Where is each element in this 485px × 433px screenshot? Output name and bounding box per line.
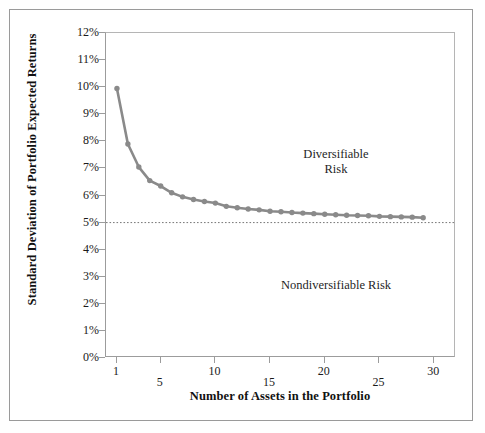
- y-axis-tick-label: 11%: [55, 53, 99, 65]
- y-axis-tick-label: 5%: [55, 216, 99, 228]
- x-axis-tick-label: 10: [194, 365, 234, 377]
- series-data-point: [180, 194, 185, 199]
- series-data-point: [388, 214, 393, 219]
- plot-canvas: [106, 33, 456, 358]
- x-axis-tick-label: 30: [413, 365, 453, 377]
- chart-figure: Standard Deviation of Portfolio Expected…: [0, 0, 485, 433]
- y-axis-tick-label: 2%: [55, 297, 99, 309]
- series-data-point: [300, 210, 305, 215]
- series-data-point: [278, 209, 283, 214]
- series-data-point: [169, 190, 174, 195]
- y-axis-tick-label: 0%: [55, 351, 99, 363]
- series-data-point: [191, 197, 196, 202]
- x-axis-tick-label: 1: [96, 365, 136, 377]
- x-axis-tick-mark: [269, 357, 270, 363]
- series-data-point: [399, 214, 404, 219]
- series-data-point: [311, 211, 316, 216]
- x-axis-tick-label: 5: [140, 376, 180, 388]
- x-axis-tick-label: 20: [304, 365, 344, 377]
- y-axis-tick-label: 12%: [55, 26, 99, 38]
- y-axis-title: Standard Deviation of Portfolio Expected…: [25, 20, 40, 320]
- series-data-point: [355, 213, 360, 218]
- plot-area: Diversifiable Risk Nondiversifiable Risk: [105, 32, 455, 357]
- y-axis-tick-label: 3%: [55, 270, 99, 282]
- y-axis-tick-label: 1%: [55, 324, 99, 336]
- y-axis-tick-label: 9%: [55, 107, 99, 119]
- series-data-point: [202, 199, 207, 204]
- x-axis-tick-mark: [116, 357, 117, 363]
- series-data-point: [377, 214, 382, 219]
- y-axis-tick-labels: 12%11%10%9%8%7%6%5%4%3%2%1%0%: [52, 32, 99, 357]
- series-data-point: [245, 206, 250, 211]
- y-axis-tick-label: 7%: [55, 161, 99, 173]
- x-axis-tick-label: 15: [249, 376, 289, 388]
- y-axis-tick-label: 10%: [55, 80, 99, 92]
- series-data-point: [289, 210, 294, 215]
- series-data-point: [267, 209, 272, 214]
- series-data-point: [213, 200, 218, 205]
- series-data-point: [224, 204, 229, 209]
- series-data-point: [344, 213, 349, 218]
- x-axis-tick-mark: [433, 357, 434, 363]
- x-axis-title: Number of Assets in the Portfolio: [105, 389, 455, 404]
- series-data-point: [322, 211, 327, 216]
- series-data-point: [114, 86, 119, 91]
- x-axis-tick-label: 25: [358, 376, 398, 388]
- series-data-point: [256, 207, 261, 212]
- series-data-point: [158, 183, 163, 188]
- annotation-nondiversifiable-risk: Nondiversifiable Risk: [216, 278, 456, 293]
- series-data-point: [410, 214, 415, 219]
- y-axis-tick-label: 6%: [55, 189, 99, 201]
- series-data-point: [147, 178, 152, 183]
- y-axis-tick-label: 4%: [55, 243, 99, 255]
- series-data-point: [333, 212, 338, 217]
- annotation-diversifiable-risk: Diversifiable Risk: [256, 147, 416, 177]
- series-data-point: [235, 205, 240, 210]
- y-axis-tick-label: 8%: [55, 134, 99, 146]
- x-axis-tick-mark: [214, 357, 215, 363]
- series-data-point: [125, 141, 130, 146]
- series-data-point: [366, 213, 371, 218]
- series-data-point: [136, 164, 141, 169]
- x-axis-ticks: 151015202530: [105, 357, 455, 389]
- series-data-point: [420, 215, 425, 220]
- x-axis-tick-mark: [160, 357, 161, 363]
- x-axis-tick-mark: [324, 357, 325, 363]
- x-axis-tick-mark: [378, 357, 379, 363]
